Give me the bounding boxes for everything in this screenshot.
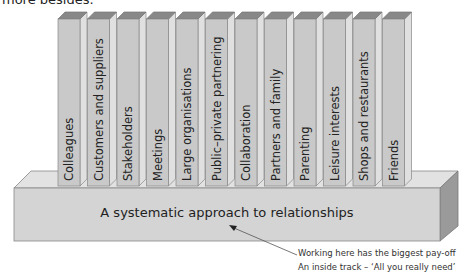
pillar-label: Shops and restaurants: [357, 51, 371, 181]
pillar-label: Collaboration: [239, 104, 253, 181]
pillar-label: Colleagues: [62, 118, 76, 181]
pillar-label: Stakeholders: [121, 106, 135, 181]
pillar-label: Customers and suppliers: [92, 38, 106, 181]
pillar-label: Meetings: [151, 129, 165, 181]
annotation-line-2: An inside track – ‘All you really need’: [298, 262, 455, 272]
pillar-label: Partners and family: [269, 69, 283, 181]
pillar-label: Large organisations: [180, 68, 194, 181]
pillar-label: Leisure interests: [328, 86, 342, 181]
annotation-line-1: Working here has the biggest pay-off: [298, 248, 456, 258]
pillar-label: Friends: [387, 140, 401, 181]
pillar-label: Public–private partnering: [210, 36, 224, 181]
pillar-label: Parenting: [298, 126, 312, 181]
base-label: A systematic approach to relationships: [14, 205, 440, 220]
